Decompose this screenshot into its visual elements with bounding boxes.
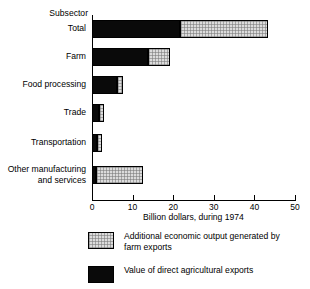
bar-segment-direct: [92, 104, 99, 122]
bar-segment-additional: [96, 166, 143, 184]
bar-segment-additional: [117, 76, 123, 94]
legend: Additional economic output generated by …: [88, 231, 310, 289]
bar-segment-direct: [92, 48, 148, 66]
category-label: Transportation: [0, 137, 86, 148]
x-tick: [92, 195, 93, 201]
x-tick: [254, 195, 255, 201]
bar-segment-additional: [148, 48, 170, 66]
legend-item: Value of direct agricultural exports: [88, 265, 310, 289]
x-tick-label: 10: [118, 202, 148, 212]
category-label: Total: [0, 23, 86, 34]
x-tick-label: 40: [239, 202, 269, 212]
x-tick: [295, 195, 296, 201]
category-label: Food processing: [0, 79, 86, 90]
bar-segment-direct: [92, 20, 180, 38]
axis-header-label: Subsector: [0, 8, 88, 18]
x-tick: [133, 195, 134, 201]
x-tick-label: 20: [158, 202, 188, 212]
category-label: Farm: [0, 51, 86, 62]
x-axis-title: Billion dollars, during 1974: [92, 212, 295, 222]
bar-segment-additional: [97, 134, 102, 152]
bar-segment-additional: [180, 20, 268, 38]
bar-segment-direct: [92, 76, 117, 94]
x-tick-label: 0: [77, 202, 107, 212]
legend-swatch-dark: [88, 266, 114, 283]
category-label: Other manufacturing and services: [0, 164, 86, 185]
legend-swatch-light: [88, 232, 114, 249]
x-axis-line: [92, 200, 295, 201]
x-tick-label: 50: [280, 202, 310, 212]
legend-label: Value of direct agricultural exports: [124, 265, 309, 276]
x-tick-label: 30: [199, 202, 229, 212]
x-tick: [173, 195, 174, 201]
category-label: Trade: [0, 107, 86, 118]
bar-chart: Subsector TotalFarmFood processingTradeT…: [0, 0, 310, 289]
legend-item: Additional economic output generated by …: [88, 231, 310, 257]
bar-segment-additional: [99, 104, 104, 122]
x-tick: [214, 195, 215, 201]
legend-label: Additional economic output generated by …: [124, 231, 309, 252]
